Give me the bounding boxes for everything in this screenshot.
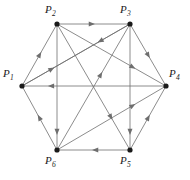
vertex-layer <box>19 21 168 152</box>
vertex-node-p5 <box>127 147 132 152</box>
arrowhead-icon <box>36 52 41 59</box>
vertex-label-base: P <box>169 67 176 79</box>
vertex-label-p4: P4 <box>169 68 179 79</box>
arrowhead-icon <box>55 129 60 135</box>
arrowhead-icon <box>38 115 43 122</box>
arrowhead-icon <box>145 51 150 58</box>
arrowhead-icon <box>145 115 150 122</box>
arrowhead-icon <box>89 22 95 27</box>
vertex-label-subscript: 2 <box>52 9 56 18</box>
vertex-label-p3: P3 <box>120 4 130 15</box>
directed-graph-figure: P1P2P3P4P5P6 <box>0 0 190 180</box>
edge-p5-to-p6 <box>57 148 130 153</box>
edge-p2-to-p4 <box>57 24 166 86</box>
vertex-label-p2: P2 <box>45 4 55 15</box>
edge-p5-to-p4 <box>130 86 166 150</box>
vertex-label-p5: P5 <box>120 155 130 166</box>
vertex-label-p1: P1 <box>3 68 13 79</box>
edge-p1-to-p2 <box>22 24 57 86</box>
vertex-label-base: P <box>120 3 127 15</box>
vertex-label-subscript: 4 <box>176 73 180 82</box>
vertex-node-p6 <box>54 147 59 152</box>
arrowhead-icon <box>128 129 133 135</box>
arrowhead-icon <box>97 72 102 79</box>
arrowhead-icon <box>92 148 98 153</box>
edge-p3-to-p5 <box>128 24 133 150</box>
edge-p6-to-p1 <box>22 86 57 150</box>
vertex-label-base: P <box>120 154 127 166</box>
vertex-node-p2 <box>54 21 59 26</box>
vertex-label-subscript: 5 <box>127 160 131 169</box>
edge-line <box>57 24 166 86</box>
vertex-label-base: P <box>45 3 52 15</box>
vertex-node-p1 <box>19 83 24 88</box>
vertex-label-subscript: 6 <box>52 160 56 169</box>
edge-p3-to-p4 <box>130 24 166 86</box>
edge-p2-to-p3 <box>57 22 130 27</box>
vertex-node-p3 <box>127 21 132 26</box>
vertex-label-p6: P6 <box>45 155 55 166</box>
graph-canvas <box>0 0 190 180</box>
edge-layer <box>22 22 166 153</box>
vertex-label-base: P <box>3 67 10 79</box>
arrowhead-icon <box>98 37 105 42</box>
arrowhead-icon <box>48 84 54 89</box>
vertex-node-p4 <box>163 83 168 88</box>
vertex-label-subscript: 3 <box>127 9 131 18</box>
vertex-label-subscript: 1 <box>10 73 14 82</box>
vertex-label-base: P <box>45 154 52 166</box>
edge-p2-to-p6 <box>55 24 60 150</box>
